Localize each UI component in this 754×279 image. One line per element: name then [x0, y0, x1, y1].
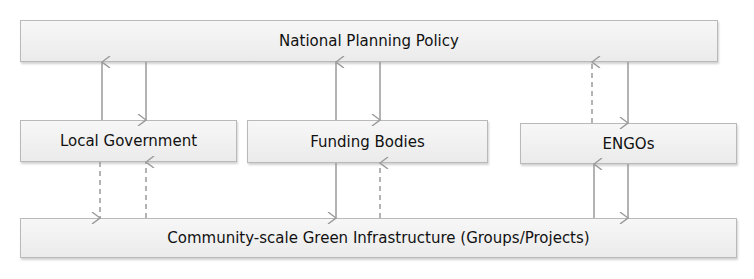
node-label: National Planning Policy: [279, 32, 459, 50]
node-funding-bodies: Funding Bodies: [247, 120, 488, 163]
node-engos: ENGOs: [520, 123, 737, 164]
node-national-planning-policy: National Planning Policy: [20, 20, 718, 62]
node-local-government: Local Government: [20, 120, 237, 162]
node-label: Community-scale Green Infrastructure (Gr…: [167, 229, 589, 247]
node-community-green-infrastructure: Community-scale Green Infrastructure (Gr…: [20, 218, 737, 258]
node-label: ENGOs: [603, 135, 655, 153]
node-label: Funding Bodies: [310, 133, 425, 151]
node-label: Local Government: [60, 132, 197, 150]
